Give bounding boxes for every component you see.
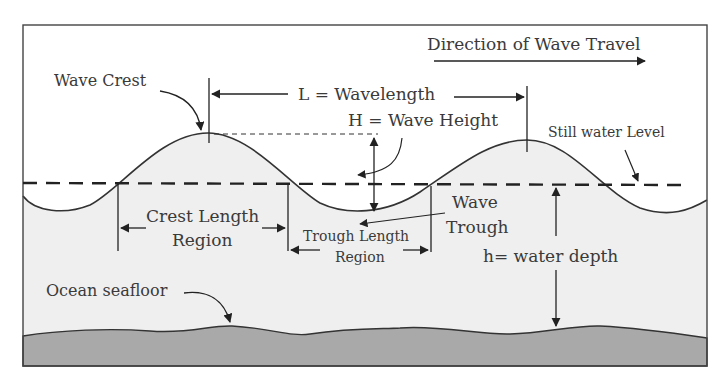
- still-water-level-label: Still water Level: [548, 124, 665, 140]
- crest-length-label-2: Region: [172, 230, 232, 250]
- wave-diagram: Direction of Wave Travel Wave Crest L = …: [0, 0, 720, 387]
- crest-length-label-1: Crest Length: [146, 206, 259, 226]
- still-water-level-arrow: [625, 150, 638, 181]
- wave-height-curved-arrow: [358, 138, 402, 175]
- trough-length-label-1: Trough Length: [303, 228, 409, 244]
- trough-length-label-2: Region: [335, 249, 385, 265]
- wave-crest-arrow: [160, 91, 201, 130]
- wave-trough-label-1: Wave: [452, 192, 498, 212]
- seafloor: [23, 326, 707, 366]
- ocean-seafloor-label: Ocean seafloor: [46, 281, 168, 300]
- wave-trough-label-2: Trough: [446, 217, 509, 237]
- wavelength-label: L = Wavelength: [298, 84, 435, 104]
- water-depth-label: h= water depth: [483, 246, 618, 266]
- wave-height-label: H = Wave Height: [348, 110, 498, 130]
- wave-crest-label: Wave Crest: [54, 71, 147, 90]
- direction-label: Direction of Wave Travel: [427, 34, 640, 54]
